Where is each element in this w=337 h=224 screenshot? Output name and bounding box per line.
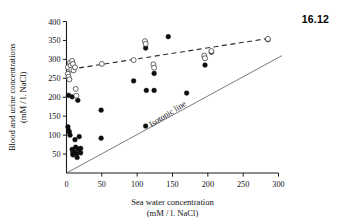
scatter-plot: 5010015020025030035040005010015020025030… (0, 0, 337, 224)
data-point-filled (143, 124, 148, 129)
x-tick-label: 50 (98, 180, 106, 189)
x-tick-label: 150 (166, 180, 178, 189)
y-tick-label: 350 (48, 36, 60, 45)
axis-labels-group: Isotonic lineSea water concentration(mM … (7, 43, 215, 218)
x-axis-title: Sea water concentration (131, 197, 214, 207)
data-point-filled (131, 79, 136, 84)
data-point-open (143, 41, 148, 46)
y-tick-label: 100 (48, 131, 60, 140)
data-point-filled (152, 88, 157, 93)
data-point-open (265, 36, 270, 41)
y-tick-label: 50 (52, 150, 60, 159)
data-point-filled (99, 108, 104, 113)
data-point-filled (68, 133, 73, 138)
data-point-open (203, 56, 208, 61)
data-point-filled (75, 155, 80, 160)
data-point-open (67, 77, 72, 82)
data-point-open (209, 49, 214, 54)
isotonic-line-label: Isotonic line (148, 99, 188, 129)
y-tick-label: 150 (48, 112, 60, 121)
axis-spines (67, 22, 279, 174)
figure-container: 16.12 5010015020025030035040005010015020… (0, 0, 337, 224)
y-tick-label: 400 (48, 18, 60, 27)
y-axis-units: (mM / l. NaCl) (18, 71, 28, 123)
y-tick-label: 200 (48, 93, 60, 102)
data-point-filled (152, 71, 157, 76)
data-point-open (152, 65, 157, 70)
data-points-group (65, 34, 270, 160)
y-axis-title: Blood and urine concentrations (7, 43, 17, 151)
data-point-open (131, 58, 136, 63)
y-tick-label: 250 (48, 74, 60, 83)
data-point-filled (78, 146, 83, 151)
data-point-open (72, 65, 77, 70)
data-point-open (73, 86, 78, 91)
data-point-open (99, 61, 104, 66)
x-axis-units: (mM / l. NaCl) (147, 208, 199, 218)
data-point-open (74, 93, 79, 98)
data-point-filled (77, 134, 82, 139)
data-point-filled (144, 88, 149, 93)
data-point-filled (73, 137, 78, 142)
data-point-filled (166, 34, 171, 39)
x-tick-label: 300 (272, 180, 284, 189)
data-point-filled (78, 151, 83, 156)
x-tick-label: 100 (131, 180, 143, 189)
data-point-filled (99, 136, 104, 141)
x-tick-label: 250 (237, 180, 249, 189)
y-tick-label: 300 (48, 55, 60, 64)
data-point-filled (203, 63, 208, 68)
x-tick-label: 200 (202, 180, 214, 189)
data-point-filled (184, 91, 189, 96)
x-tick-label: 0 (64, 180, 68, 189)
